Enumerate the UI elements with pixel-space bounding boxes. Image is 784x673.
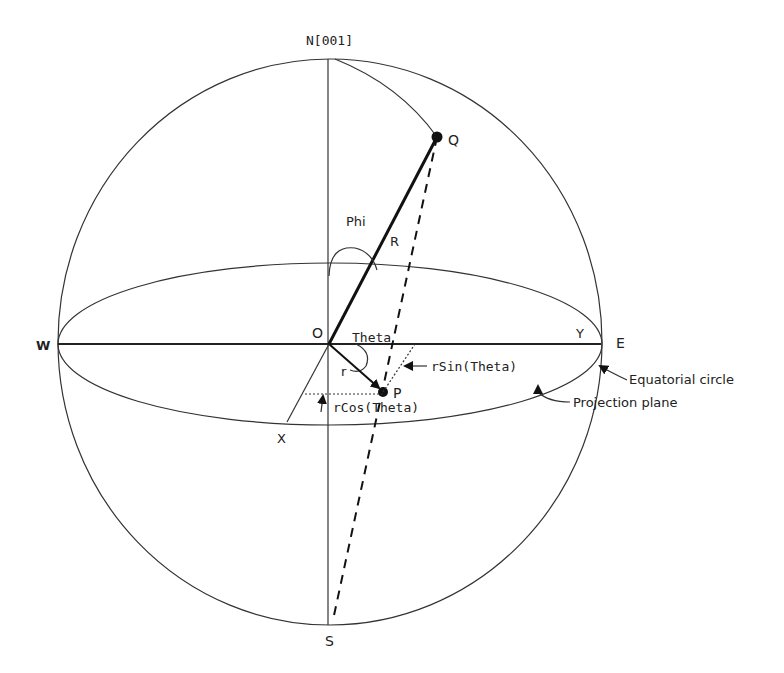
label-equatorial-circle: Equatorial circle xyxy=(629,372,734,387)
radius-r-line xyxy=(329,137,437,344)
label-x: X xyxy=(277,431,286,446)
small-r-arrow xyxy=(329,344,379,388)
x-axis-line xyxy=(287,344,329,422)
point-q xyxy=(432,132,443,143)
phi-arc xyxy=(329,248,377,276)
label-east: E xyxy=(616,335,625,351)
label-projection-plane: Projection plane xyxy=(573,395,677,410)
q-to-s-dashed-line xyxy=(333,137,437,620)
label-q: Q xyxy=(448,132,459,148)
equatorial-circle-pointer xyxy=(600,366,627,380)
north-to-q-line xyxy=(335,59,437,137)
label-origin: O xyxy=(312,325,323,341)
label-big-r: R xyxy=(390,234,399,249)
label-phi: Phi xyxy=(346,214,366,229)
label-r-sin-theta: rSin(Theta) xyxy=(431,359,517,374)
label-north: N[001] xyxy=(306,33,353,48)
theta-arc xyxy=(350,344,368,371)
label-south: S xyxy=(325,633,334,649)
stereographic-projection-diagram: N[001] S W E O Q P Phi R Theta r X Y rSi… xyxy=(0,0,784,673)
r-cos-pointer-arrow xyxy=(321,396,323,412)
label-p: P xyxy=(393,385,401,401)
label-r-cos-theta: rCos(Theta) xyxy=(333,400,419,415)
label-theta: Theta xyxy=(352,330,391,345)
label-y: Y xyxy=(575,326,584,341)
label-west: W xyxy=(36,338,50,353)
label-small-r: r xyxy=(341,364,347,379)
